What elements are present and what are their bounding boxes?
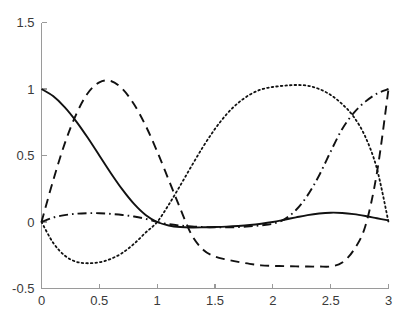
x-tick-label: 3 xyxy=(385,293,392,308)
x-tick-label: 2.5 xyxy=(322,293,340,308)
y-tick-label: -0.5 xyxy=(12,281,34,296)
x-tick-label-group: 00.511.522.53 xyxy=(38,293,392,308)
x-tick-label: 1.5 xyxy=(206,293,224,308)
x-tick-label: 0.5 xyxy=(90,293,108,308)
x-tick-label: 0 xyxy=(38,293,45,308)
y-tick-label: 1 xyxy=(27,82,34,97)
series-line-curve-4 xyxy=(42,89,389,227)
y-tick-label-group: -0.500.511.5 xyxy=(12,15,34,296)
y-tick-label: 0.5 xyxy=(16,148,34,163)
axes-group xyxy=(42,23,389,289)
series-line-curve-1 xyxy=(42,89,389,227)
series-group xyxy=(42,80,389,266)
series-line-curve-3 xyxy=(42,85,389,263)
y-tick-group xyxy=(42,23,47,289)
figure-canvas: 00.511.522.53 -0.500.511.5 xyxy=(0,0,412,331)
line-chart: 00.511.522.53 -0.500.511.5 xyxy=(0,0,412,331)
x-tick-label: 1 xyxy=(154,293,161,308)
series-line-curve-2 xyxy=(42,80,389,266)
y-tick-label: 0 xyxy=(27,215,34,230)
x-tick-label: 2 xyxy=(269,293,276,308)
y-tick-label: 1.5 xyxy=(16,15,34,30)
x-tick-group xyxy=(42,284,389,289)
